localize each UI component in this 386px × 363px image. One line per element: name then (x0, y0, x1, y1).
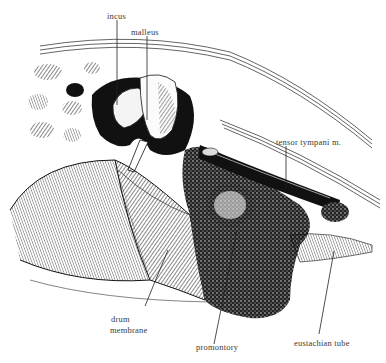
mastoid-air-cells (28, 62, 100, 142)
label-promontory: promontory (196, 342, 238, 352)
eustachian-tube (290, 234, 372, 262)
label-incus: incus (107, 11, 126, 21)
label-tensor-tympani: tensor tympani m. (276, 137, 341, 147)
middle-ear-illustration (0, 0, 386, 363)
label-malleus: malleus (131, 27, 159, 37)
label-eustachian-tube: eustachian tube (294, 338, 350, 348)
malleus-handle (128, 140, 148, 172)
label-drum-membrane-line2: membrane (110, 325, 147, 335)
label-drum-membrane-line1: drum (111, 314, 130, 324)
